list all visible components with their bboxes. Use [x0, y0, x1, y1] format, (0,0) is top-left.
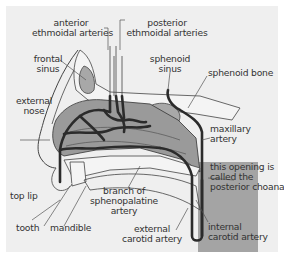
label-tooth: tooth	[16, 223, 39, 233]
label-internal-carotid-artery: internal carotid artery	[208, 222, 268, 242]
label-maxillary-artery: maxillary artery	[210, 124, 251, 144]
label-frontal-sinus: frontal sinus	[30, 54, 66, 74]
label-posterior-choana: this opening is called the posterior cho…	[210, 162, 284, 192]
label-posterior-ethmoidal-arteries: posterior ethmoidal arteries	[124, 18, 210, 38]
tooth-shape	[70, 162, 86, 186]
label-branch-sphenopalatine-artery: branch of sphenopalatine artery	[88, 186, 160, 216]
label-anterior-ethmoidal-arteries: anterior ethmoidal arteries	[32, 18, 110, 38]
label-sphenoid-sinus: sphenoid sinus	[148, 54, 192, 74]
label-mandible: mandible	[50, 223, 91, 233]
label-external-carotid-artery: external carotid artery	[120, 224, 184, 244]
label-sphenoid-bone: sphenoid bone	[208, 68, 273, 78]
label-external-nose: external nose	[14, 96, 54, 116]
label-top-lip: top lip	[10, 191, 38, 201]
